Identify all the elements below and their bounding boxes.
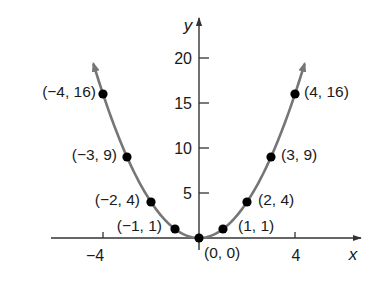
point-label-3-9: (3, 9): [281, 146, 317, 163]
parabola-chart: −4 4 5 10 15 20 x y (−4, 16) (−3, 9) (−2…: [0, 0, 392, 281]
data-point: [170, 224, 179, 233]
data-point: [122, 152, 131, 161]
point-label-neg3-9: (−3, 9): [72, 146, 117, 163]
data-point: [290, 89, 299, 98]
x-tick-label-4: 4: [292, 247, 301, 264]
point-label-neg2-4: (−2, 4): [95, 191, 140, 208]
data-point: [218, 224, 227, 233]
point-label-4-16: (4, 16): [304, 83, 349, 100]
point-label-1-1: (1, 1): [238, 217, 274, 234]
data-point: [266, 152, 275, 161]
y-axis-label: y: [183, 16, 194, 35]
x-axis-label: x: [348, 245, 358, 264]
data-point: [194, 233, 203, 242]
y-tick-label-15: 15: [174, 95, 192, 112]
y-tick-label-20: 20: [174, 50, 192, 67]
point-label-2-4: (2, 4): [258, 191, 294, 208]
y-tick-label-5: 5: [183, 185, 192, 202]
data-point: [146, 197, 155, 206]
data-point: [98, 89, 107, 98]
point-label-neg4-16: (−4, 16): [42, 83, 96, 100]
point-label-neg1-1: (−1, 1): [117, 217, 162, 234]
x-tick-label-neg4: −4: [86, 247, 104, 264]
data-point: [242, 197, 251, 206]
y-tick-label-10: 10: [174, 140, 192, 157]
point-label-0-0: (0, 0): [204, 244, 240, 261]
